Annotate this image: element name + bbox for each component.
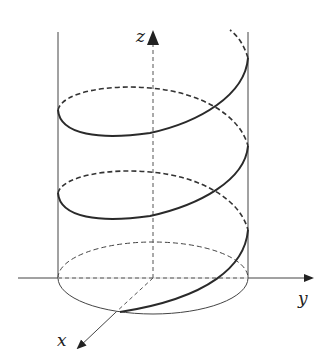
helix-back-top	[230, 30, 248, 58]
y-axis-label: y	[298, 288, 308, 308]
helix-front-upper	[58, 58, 248, 136]
x-axis-label: x	[57, 330, 67, 350]
diagram-svg	[0, 0, 331, 359]
x-axis	[78, 313, 115, 348]
helix-diagram: z y x	[0, 0, 331, 359]
z-axis-arrowhead	[147, 30, 159, 45]
base-ellipse-front	[58, 278, 248, 314]
z-axis-label: z	[136, 26, 145, 46]
